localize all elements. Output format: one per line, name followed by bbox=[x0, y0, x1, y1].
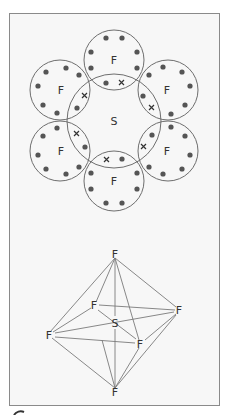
label-F-upper-right: F bbox=[164, 84, 170, 97]
label-F-top: F bbox=[111, 54, 117, 67]
octa-F-top: F bbox=[112, 248, 118, 261]
sf6-diagram: S F F F F F F bbox=[0, 0, 228, 415]
label-F-upper-left: F bbox=[58, 84, 64, 97]
octa-F-right: F bbox=[176, 304, 182, 317]
octa-S-center: S bbox=[112, 317, 119, 330]
label-F-bottom: F bbox=[111, 175, 117, 188]
partial-circle-marker bbox=[14, 411, 24, 415]
octa-F-front: F bbox=[137, 338, 143, 351]
label-F-lower-right: F bbox=[164, 145, 170, 158]
label-S-center: S bbox=[111, 115, 118, 128]
label-F-lower-left: F bbox=[58, 145, 64, 158]
octa-F-left: F bbox=[46, 329, 52, 342]
octa-F-bottom: F bbox=[112, 386, 118, 399]
octa-F-back-left: F bbox=[91, 299, 97, 312]
